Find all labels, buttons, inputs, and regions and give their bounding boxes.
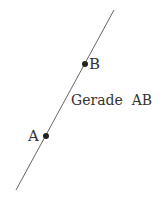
line-label: Gerade AB [71,92,152,108]
point-b-label: B [89,55,100,73]
point-a-label: A [27,127,39,145]
diagram-canvas: B A Gerade AB [0,0,162,197]
point-a [43,133,49,139]
point-b [82,61,88,67]
